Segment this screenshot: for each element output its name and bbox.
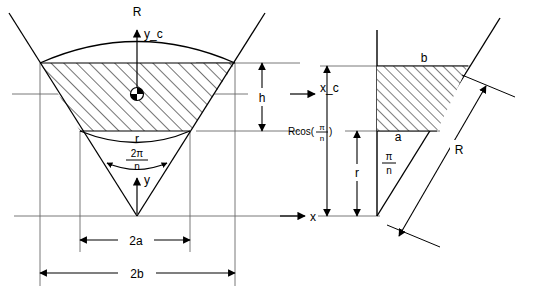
label-xc: x_c bbox=[320, 81, 339, 95]
label-x: x bbox=[310, 210, 316, 224]
svg-text:R: R bbox=[455, 143, 464, 157]
svg-text:): ) bbox=[329, 126, 332, 137]
label-y: y bbox=[144, 173, 150, 187]
svg-text:n: n bbox=[320, 134, 324, 143]
svg-text:π: π bbox=[386, 151, 393, 162]
svg-text:2a: 2a bbox=[129, 234, 143, 248]
svg-text:h: h bbox=[259, 91, 266, 105]
svg-text:n: n bbox=[386, 165, 392, 176]
geometry-diagram: R y_c r 2π n y x 2a bbox=[0, 0, 533, 296]
label-b: b bbox=[421, 51, 428, 65]
label-R-left: R bbox=[133, 5, 142, 19]
svg-text:y_c: y_c bbox=[144, 27, 163, 41]
svg-text:n: n bbox=[134, 161, 140, 172]
svg-text:Rcos(: Rcos( bbox=[288, 126, 315, 137]
svg-text:x_c: x_c bbox=[320, 81, 339, 95]
label-yc: y_c bbox=[144, 27, 163, 41]
svg-text:r: r bbox=[355, 166, 359, 180]
svg-text:2π: 2π bbox=[131, 148, 144, 159]
svg-text:π: π bbox=[319, 123, 325, 132]
svg-text:2b: 2b bbox=[130, 267, 144, 281]
label-a: a bbox=[395, 130, 402, 144]
label-r-left: r bbox=[135, 132, 139, 146]
centroid-marker bbox=[131, 88, 144, 101]
